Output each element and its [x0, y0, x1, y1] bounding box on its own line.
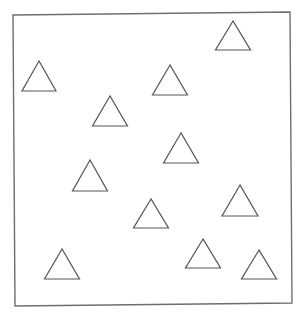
triangle-3	[153, 65, 188, 95]
triangle-2	[22, 61, 56, 91]
triangle-7	[222, 185, 258, 216]
triangle-10	[186, 239, 221, 268]
triangle-4	[93, 96, 128, 126]
triangle-6	[73, 160, 108, 191]
triangle-8	[134, 199, 169, 228]
triangle-1	[216, 21, 251, 50]
triangle-9	[45, 249, 80, 279]
triangle-11	[242, 250, 277, 279]
triangle-field-diagram	[0, 0, 300, 317]
triangle-5	[164, 133, 199, 163]
triangle-group	[22, 21, 277, 279]
